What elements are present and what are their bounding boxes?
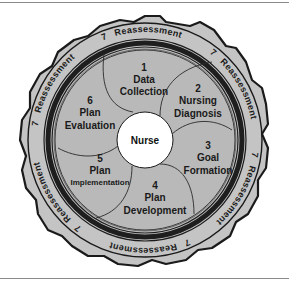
svg-text:Nursing: Nursing <box>179 95 217 106</box>
svg-text:Goal: Goal <box>197 152 219 163</box>
svg-text:Plan: Plan <box>144 192 165 203</box>
svg-text:Evaluation: Evaluation <box>65 120 116 131</box>
svg-text:3: 3 <box>205 140 211 151</box>
svg-text:2: 2 <box>195 83 201 94</box>
svg-text:Collection: Collection <box>120 86 168 97</box>
svg-text:Development: Development <box>124 205 187 216</box>
svg-text:Plan: Plan <box>89 165 110 176</box>
nursing-process-wheel: 7Reassessment 7Reassessment 7Reassessmen… <box>0 0 289 281</box>
svg-text:Diagnosis: Diagnosis <box>174 108 222 119</box>
svg-text:1: 1 <box>141 62 147 73</box>
svg-text:Plan: Plan <box>79 107 100 118</box>
svg-text:Formation: Formation <box>184 165 233 176</box>
center-node: Nurse <box>117 112 173 168</box>
svg-text:4: 4 <box>152 180 158 191</box>
svg-text:5: 5 <box>97 153 103 164</box>
center-label: Nurse <box>131 135 160 146</box>
svg-text:6: 6 <box>87 95 93 106</box>
svg-text:Implementation: Implementation <box>70 178 129 187</box>
svg-text:Data: Data <box>133 74 155 85</box>
